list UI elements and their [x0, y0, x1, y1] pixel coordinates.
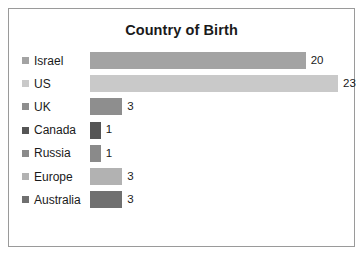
- legend-item-label: Australia: [34, 194, 81, 206]
- bar-row: Canada1: [9, 119, 354, 142]
- legend-swatch-icon: [22, 150, 29, 157]
- bar-row: US23: [9, 72, 354, 95]
- bar[interactable]: [90, 122, 101, 139]
- bar-track: 23: [90, 72, 350, 95]
- bar-track: 20: [90, 49, 350, 72]
- bar-track: 3: [90, 188, 350, 211]
- bar-chart-plot-area: Israel20US23UK3Canada1Russia1Europe3Aust…: [9, 49, 354, 211]
- bar-value-label: 3: [127, 101, 133, 113]
- bar-row: Israel20: [9, 49, 354, 72]
- bar-row: Australia3: [9, 188, 354, 211]
- bar-value-label: 3: [127, 171, 133, 183]
- bar[interactable]: [90, 52, 306, 69]
- bar-track: 1: [90, 119, 350, 142]
- legend-swatch-icon: [22, 127, 29, 134]
- legend-swatch-icon: [22, 80, 29, 87]
- legend-item-label: UK: [34, 101, 51, 113]
- legend-item[interactable]: UK: [22, 95, 51, 118]
- bar-track: 1: [90, 142, 350, 165]
- bar[interactable]: [90, 98, 122, 115]
- bar[interactable]: [90, 145, 101, 162]
- legend-item-label: Russia: [34, 147, 71, 159]
- bar-track: 3: [90, 95, 350, 118]
- chart-title: Country of Birth: [9, 22, 354, 38]
- bar[interactable]: [90, 75, 338, 92]
- legend-item-label: Canada: [34, 124, 76, 136]
- legend-item-label: Israel: [34, 55, 63, 67]
- legend-item[interactable]: Europe: [22, 165, 73, 188]
- legend-item[interactable]: Israel: [22, 49, 63, 72]
- bar-track: 3: [90, 165, 350, 188]
- legend-swatch-icon: [22, 173, 29, 180]
- bar-row: UK3: [9, 95, 354, 118]
- bar[interactable]: [90, 191, 122, 208]
- bar-row: Europe3: [9, 165, 354, 188]
- bar-value-label: 23: [343, 78, 356, 90]
- legend-item[interactable]: Australia: [22, 188, 81, 211]
- legend-item[interactable]: Russia: [22, 142, 71, 165]
- legend-swatch-icon: [22, 196, 29, 203]
- bar[interactable]: [90, 168, 122, 185]
- chart-frame: Country of Birth Israel20US23UK3Canada1R…: [8, 8, 355, 247]
- legend-item-label: US: [34, 78, 51, 90]
- legend-swatch-icon: [22, 57, 29, 64]
- bar-value-label: 3: [127, 194, 133, 206]
- legend-item[interactable]: Canada: [22, 119, 76, 142]
- bar-row: Russia1: [9, 142, 354, 165]
- bar-value-label: 1: [106, 148, 112, 160]
- legend-swatch-icon: [22, 103, 29, 110]
- bar-value-label: 20: [311, 55, 324, 67]
- bar-value-label: 1: [106, 124, 112, 136]
- legend-item-label: Europe: [34, 171, 73, 183]
- legend-item[interactable]: US: [22, 72, 51, 95]
